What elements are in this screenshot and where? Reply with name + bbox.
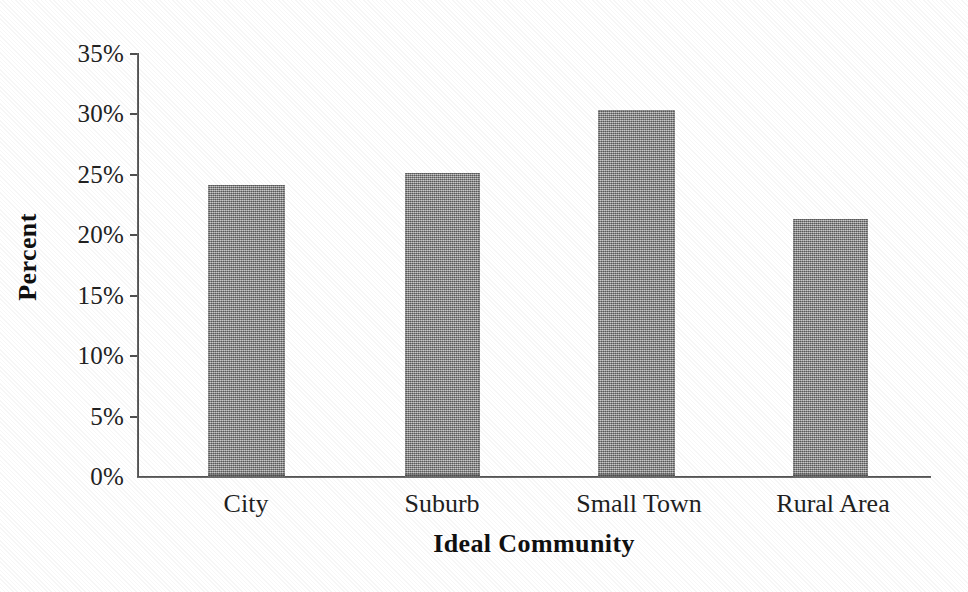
bar-base-shadow <box>405 474 480 477</box>
bar-base-shadow <box>598 474 675 477</box>
y-tick-30: 30% <box>0 101 124 126</box>
y-tick-0: 0% <box>0 464 124 489</box>
y-tick-label-0: 0% <box>2 464 124 489</box>
y-tick-25: 25% <box>0 162 124 187</box>
y-tick-20: 20% <box>0 222 124 247</box>
bars-layer <box>138 53 930 477</box>
y-axis-title: Percent <box>13 167 43 347</box>
y-tick-label-35: 35% <box>2 41 124 66</box>
y-tick-label-30: 30% <box>2 101 124 126</box>
bar-rural-area <box>793 219 868 477</box>
bar-base-shadow <box>208 474 285 477</box>
x-tick-label-city: City <box>176 489 316 519</box>
bar-chart-figure: Percent 35% 30% 25% 20% 15% 10% 5% 0% <box>0 0 968 592</box>
y-tick-label-20: 20% <box>2 222 124 247</box>
y-tick-label-25: 25% <box>2 162 124 187</box>
x-tick-label-rural-area: Rural Area <box>745 489 921 519</box>
y-tick-label-15: 15% <box>2 283 124 308</box>
x-tick-label-small-town: Small Town <box>551 489 727 519</box>
y-tick-5: 5% <box>0 404 124 429</box>
y-tick-label-5: 5% <box>2 404 124 429</box>
y-tick-35: 35% <box>0 41 124 66</box>
bar-city <box>208 185 285 477</box>
y-tick-15: 15% <box>0 283 124 308</box>
bar-base-shadow <box>793 474 868 477</box>
bar-suburb <box>405 173 480 477</box>
x-axis-title: Ideal Community <box>138 529 930 559</box>
y-tick-label-10: 10% <box>2 343 124 368</box>
bar-small-town <box>598 110 675 477</box>
y-tick-10: 10% <box>0 343 124 368</box>
x-tick-label-suburb: Suburb <box>372 489 512 519</box>
